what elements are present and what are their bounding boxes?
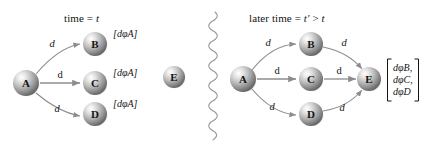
edge-label-a-c-left: d bbox=[57, 69, 63, 80]
node-c-right: C bbox=[299, 67, 324, 92]
node-e-right: E bbox=[357, 67, 382, 92]
edge-label-c-e-right: d bbox=[336, 65, 342, 76]
edge-b-e-right bbox=[323, 47, 362, 69]
edge-label-b-e-right: d bbox=[341, 37, 347, 48]
edge-label-d-e-right: d bbox=[339, 102, 345, 113]
node-a-right: A bbox=[230, 66, 257, 93]
node-d-left: D bbox=[83, 102, 108, 127]
node-c-left: C bbox=[83, 71, 108, 96]
node-e-left: E bbox=[163, 66, 186, 89]
node-b-left: B bbox=[83, 32, 108, 57]
node-d-left-label: D bbox=[91, 108, 99, 120]
node-a-left-label: A bbox=[22, 77, 30, 89]
node-c-right-label: C bbox=[307, 73, 315, 85]
node-d-right: D bbox=[299, 102, 324, 127]
node-b-left-label: B bbox=[91, 38, 99, 50]
node-e-left-label: E bbox=[170, 71, 177, 83]
diagram-figure: time = t later time = t′ > t [dφA] [dφA]… bbox=[0, 0, 444, 159]
node-c-left-label: C bbox=[91, 77, 99, 89]
left-panel-nodes: A B C D E bbox=[13, 32, 186, 127]
node-a-right-label: A bbox=[239, 73, 247, 85]
edge-label-a-d-left: d bbox=[54, 103, 60, 114]
edge-label-a-b-left: d bbox=[49, 38, 55, 49]
node-b-right: B bbox=[299, 32, 324, 57]
node-d-right-label: D bbox=[307, 108, 315, 120]
squiggly-divider-icon bbox=[209, 12, 218, 140]
right-panel-nodes: A B C D E bbox=[230, 32, 382, 127]
edge-label-a-b-right: d bbox=[265, 37, 271, 48]
edge-label-a-d-right: d bbox=[269, 101, 275, 112]
left-panel-edge-labels: d d d bbox=[49, 38, 63, 114]
node-b-right-label: B bbox=[307, 38, 315, 50]
node-e-right-label: E bbox=[365, 73, 372, 85]
diagram-canvas: A B C D E d bbox=[0, 0, 444, 159]
node-a-left: A bbox=[13, 70, 40, 97]
edge-label-a-c-right: d bbox=[274, 65, 280, 76]
